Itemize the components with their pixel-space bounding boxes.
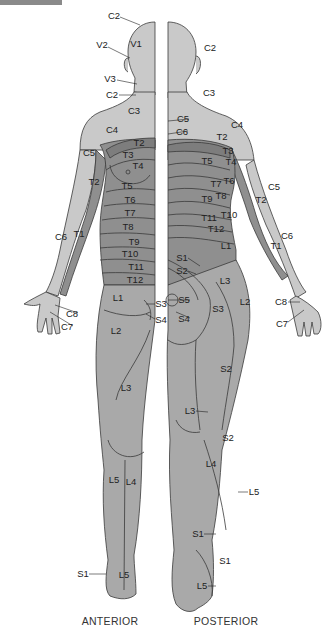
anterior-label-t2: T2 [133,138,144,148]
posterior-label-s1: S1 [192,529,204,539]
anterior-label-t7: T7 [124,208,135,218]
posterior-label-t2: T2 [255,195,266,205]
anterior-label-l3: L3 [121,383,132,393]
anterior-label-l4: L4 [126,477,137,487]
anterior-label-s3: S3 [155,299,167,309]
anterior-label-l1: L1 [113,293,124,303]
anterior-label-l5: L5 [119,570,130,580]
posterior-label-t4: T4 [225,157,236,167]
anterior-label-c6: C6 [55,232,67,242]
anterior-label-t4: T4 [132,161,143,171]
posterior-label-t3: T3 [222,146,233,156]
posterior-label-t2: T2 [216,132,227,142]
anterior-label-v1: V1 [130,39,142,49]
posterior-label-t5: T5 [201,156,212,166]
posterior-label-s4: S4 [178,314,190,324]
anterior-label-v3: V3 [104,74,116,84]
anterior-label-t5: T5 [121,181,132,191]
anterior-label-c5: C5 [83,148,95,158]
posterior-label-c6: C6 [281,231,293,241]
posterior-label-t9: T9 [201,194,212,204]
caption-anterior: ANTERIOR [82,615,139,627]
posterior-label-t11: T11 [201,213,217,223]
anterior-label-l5: L5 [109,475,120,485]
posterior-label-c2: C2 [204,43,216,53]
posterior-label-c8: C8 [275,297,287,307]
posterior-label-s2: S2 [176,266,188,276]
posterior-label-s2: S2 [222,433,234,443]
anterior-label-c8: C8 [66,309,78,319]
posterior-label-c6: C6 [176,127,188,137]
posterior-label-l3: L3 [185,406,196,416]
posterior-label-s5: S5 [178,295,190,305]
anterior-label-c3: C3 [128,106,140,116]
anterior-label-s1: S1 [77,569,89,579]
anterior-label-v2: V2 [96,40,108,50]
anterior-label-t1: T1 [73,229,84,239]
anterior-label-t9: T9 [128,237,139,247]
posterior-label-c7: C7 [276,319,288,329]
posterior-label-t7: T7 [210,179,221,189]
anterior-label-c7: C7 [61,322,73,332]
posterior-label-c4: C4 [231,120,243,130]
posterior-label-t10: T10 [221,210,237,220]
anterior-label-c2: C2 [108,11,120,21]
posterior-label-c5: C5 [177,114,189,124]
posterior-label-t1: T1 [270,241,281,251]
anterior-label-c4: C4 [106,125,118,135]
posterior-label-c3: C3 [203,88,215,98]
posterior-label-c5: C5 [268,182,280,192]
posterior-label-t12: T12 [208,224,224,234]
anterior-label-t3: T3 [122,150,133,160]
anterior-label-s4: S4 [155,315,167,325]
posterior-label-l3: L3 [220,276,231,286]
posterior-label-l5: L5 [197,581,208,591]
anterior-label-t6: T6 [124,195,135,205]
posterior-label-s1: S1 [219,556,231,566]
posterior-label-s2: S2 [220,364,232,374]
anterior-label-l2: L2 [111,326,122,336]
posterior-label-s1: S1 [176,253,188,263]
caption-posterior: POSTERIOR [194,615,259,627]
posterior-label-s3: S3 [212,304,224,314]
anterior-label-t10: T10 [122,249,138,259]
anterior-label-t12: T12 [127,275,143,285]
posterior-label-l2: L2 [240,297,251,307]
anterior-label-t2: T2 [88,177,99,187]
anterior-label-t11: T11 [128,262,144,272]
anterior-label-t8: T8 [122,222,133,232]
anterior-label-c2: C2 [106,90,118,100]
posterior-label-t6: T6 [223,176,234,186]
posterior-label-l1: L1 [221,241,232,251]
posterior-label-l5: L5 [249,487,260,497]
posterior-label-l4: L4 [206,459,217,469]
posterior-label-t8: T8 [215,191,226,201]
